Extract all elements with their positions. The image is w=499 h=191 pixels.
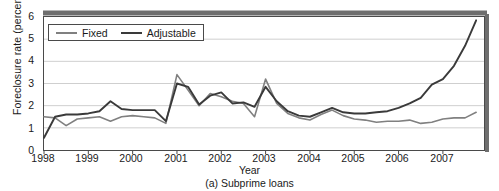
legend-label-fixed: Fixed xyxy=(82,27,108,39)
figure-subprime-loans: Foreclosure rate (percentage) 6 5 4 3 2 … xyxy=(0,0,499,191)
legend-swatch-adjustable-icon xyxy=(121,32,142,34)
chart-legend: Fixed Adjustable xyxy=(48,24,204,41)
legend-swatch-fixed-icon xyxy=(56,32,77,34)
figure-caption: (a) Subprime loans xyxy=(0,177,499,189)
x-axis-label: Year xyxy=(0,164,499,176)
legend-item-adjustable: Adjustable xyxy=(121,27,196,39)
series-line-fixed xyxy=(44,75,476,126)
legend-item-fixed: Fixed xyxy=(56,27,108,39)
legend-label-adjustable: Adjustable xyxy=(147,27,196,39)
